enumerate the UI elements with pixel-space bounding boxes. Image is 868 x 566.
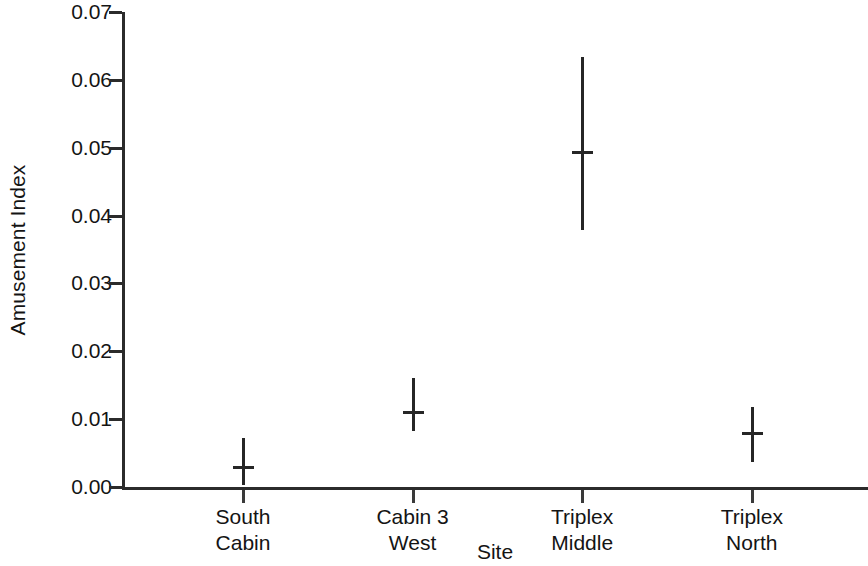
error-bar-whisker	[581, 57, 584, 230]
x-axis-tick-mark	[412, 490, 415, 503]
y-axis-tick-mark	[109, 350, 122, 353]
error-bar-mean-marker	[742, 432, 763, 435]
error-bar-mean-marker	[572, 151, 593, 154]
y-axis-tick-mark	[109, 215, 122, 218]
chart-figure: Amusement Index 0.000.010.020.030.040.05…	[0, 0, 868, 566]
y-axis-tick-label: 0.05	[12, 136, 112, 160]
x-axis-category-label-line: Cabin 3	[376, 505, 448, 528]
x-axis-category-label-line: Triplex	[551, 505, 613, 528]
y-axis-tick-label: 0.07	[12, 0, 112, 24]
y-axis-line	[122, 12, 125, 490]
x-axis-category-label-line: South	[216, 505, 271, 528]
y-axis-tick-mark	[109, 11, 122, 14]
y-axis-tick-label: 0.04	[12, 204, 112, 228]
y-axis-tick-label: 0.01	[12, 407, 112, 431]
y-axis-tick-mark	[109, 486, 122, 489]
x-axis-tick-mark	[581, 490, 584, 503]
y-axis-tick-label: 0.00	[12, 475, 112, 499]
y-axis-tick-mark	[109, 282, 122, 285]
error-bar-mean-marker	[403, 411, 424, 414]
y-axis-tick-mark	[109, 418, 122, 421]
x-axis-category-label-line: Triplex	[721, 505, 783, 528]
y-axis-tick-label: 0.03	[12, 271, 112, 295]
y-axis-tick-label: 0.06	[12, 68, 112, 92]
x-axis-tick-mark	[242, 490, 245, 503]
x-axis-line	[122, 487, 868, 490]
error-bar-whisker	[242, 438, 245, 485]
y-axis-tick-mark	[109, 79, 122, 82]
error-bar-mean-marker	[233, 466, 254, 469]
y-axis-tick-mark	[109, 147, 122, 150]
error-bar-whisker	[412, 378, 415, 431]
y-axis-tick-label: 0.02	[12, 339, 112, 363]
y-axis-tick-labels: 0.000.010.020.030.040.050.060.07	[0, 0, 112, 566]
x-axis-title: Site	[122, 540, 868, 564]
x-axis-tick-mark	[751, 490, 754, 503]
